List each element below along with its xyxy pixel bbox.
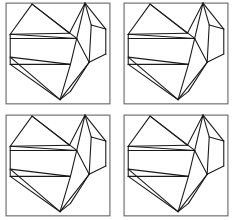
panel-bottom-left xyxy=(0,112,116,220)
crease-pattern-svg-top-right xyxy=(118,0,234,108)
crease-pattern-svg-bottom-left xyxy=(0,112,116,220)
crease-pattern-svg-bottom-right xyxy=(118,112,234,220)
panel-bottom-right xyxy=(118,112,234,220)
figure-root xyxy=(0,0,234,220)
crease-pattern-svg-top-left xyxy=(0,0,116,108)
panel-grid xyxy=(0,0,234,220)
panel-top-left xyxy=(0,0,116,108)
panel-top-right xyxy=(118,0,234,108)
